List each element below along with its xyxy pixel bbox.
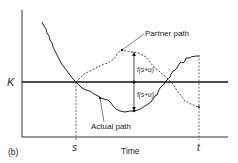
partner-path-label: Partner path: [145, 29, 189, 38]
partner-path-leader: [122, 34, 144, 50]
tick-label-s: s: [72, 142, 77, 153]
k-intersection-dot: [132, 80, 135, 83]
actual-path-leader: [100, 98, 104, 122]
diagram: K Partner path Actual path f(s+u) f(s+u)…: [0, 0, 238, 163]
actual-path-marker-dot: [99, 97, 101, 99]
partner-path-curve: [76, 50, 199, 107]
partner-path-dot: [121, 49, 123, 51]
panel-label: (b): [8, 147, 19, 157]
t-partner-dot: [198, 106, 200, 108]
actual-path-dot: [133, 110, 136, 113]
y-axis-label-k: K: [7, 76, 15, 88]
tick-label-t: t: [197, 142, 201, 153]
upper-distance-label: f(s+u): [137, 66, 154, 74]
actual-path-label: Actual path: [91, 122, 131, 131]
lower-distance-label: f(s+u): [137, 91, 154, 99]
x-axis-label-time: Time: [121, 146, 140, 156]
